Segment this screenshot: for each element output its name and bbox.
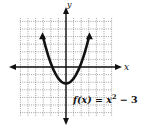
x-axis-left-arrow-icon xyxy=(9,64,16,70)
curve-right-arrow-icon xyxy=(86,32,93,39)
curve-left-arrow-icon xyxy=(39,32,46,39)
axes xyxy=(9,7,122,125)
equation-label: f(x) = x2 − 3 xyxy=(72,93,138,105)
y-axis-label: y xyxy=(66,0,72,9)
function-graph: x y f(x) = x2 − 3 xyxy=(0,0,152,127)
x-axis-right-arrow-icon xyxy=(115,64,122,70)
y-axis-bottom-arrow-icon xyxy=(63,118,69,125)
x-axis-label: x xyxy=(124,62,129,72)
